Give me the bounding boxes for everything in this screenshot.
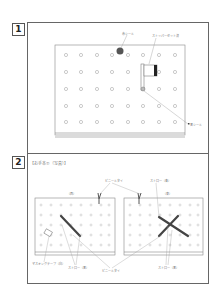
panel-2-drawing xyxy=(0,0,221,300)
